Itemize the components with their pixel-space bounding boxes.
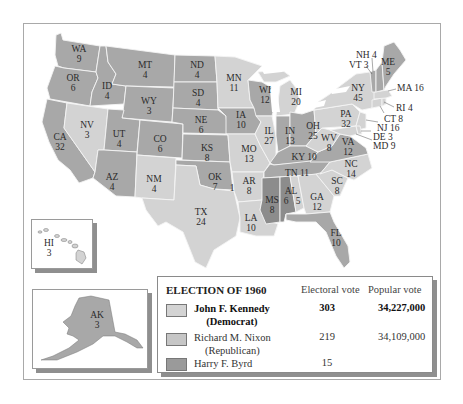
svg-text:IN13: IN13 (285, 126, 295, 146)
legend-row-byrd: Harry F. Byrd 15 (166, 358, 434, 372)
svg-text:LA10: LA10 (245, 213, 258, 233)
svg-text:AK: AK (90, 310, 104, 320)
svg-text:HI: HI (44, 238, 54, 248)
svg-text:NH 4: NH 4 (356, 50, 377, 60)
hawaii-map: HI 3 (32, 220, 92, 268)
svg-text:MI20: MI20 (290, 87, 302, 107)
svg-text:FL10: FL10 (330, 228, 341, 248)
svg-text:IL27: IL27 (264, 126, 274, 146)
svg-text:5: 5 (296, 196, 301, 206)
svg-text:VT 3: VT 3 (349, 60, 369, 70)
svg-text:TX24: TX24 (195, 207, 208, 227)
popular-vote: 34,227,000 (364, 302, 439, 313)
svg-text:RI 4: RI 4 (396, 103, 413, 113)
alaska-map: AK 3 (33, 290, 147, 368)
candidate-name: Richard M. Nixon(Republican) (194, 331, 271, 357)
alaska-inset: AK 3 (32, 289, 148, 369)
svg-text:6: 6 (284, 196, 289, 206)
svg-text:TN 11: TN 11 (285, 168, 309, 178)
legend-row-kennedy: John F. Kennedy(Democrat) 303 34,227,000 (166, 302, 434, 330)
svg-text:3: 3 (47, 248, 52, 258)
legend-col-popular: Popular vote (368, 284, 421, 295)
swatch-democrat (166, 304, 187, 317)
legend-box: ELECTION OF 1960 Electoral vote Popular … (157, 276, 433, 373)
svg-text:AL: AL (285, 186, 298, 196)
legend-col-electoral: Electoral vote (301, 284, 360, 295)
svg-text:NC14: NC14 (344, 159, 357, 179)
swatch-byrd (166, 358, 187, 371)
svg-text:WI12: WI12 (259, 85, 271, 105)
popular-vote: 34,109,000 (364, 331, 439, 342)
svg-text:IA10: IA10 (236, 110, 246, 130)
svg-text:1: 1 (230, 183, 235, 193)
svg-text:CA32: CA32 (53, 132, 66, 152)
hawaii-inset: HI 3 (31, 219, 93, 269)
swatch-republican (166, 333, 187, 346)
svg-text:3: 3 (95, 320, 100, 330)
candidate-name: John F. Kennedy(Democrat) (194, 302, 270, 328)
legend-row-nixon: Richard M. Nixon(Republican) 219 34,109,… (166, 331, 434, 359)
electoral-vote: 219 (312, 331, 342, 342)
electoral-vote: 303 (312, 302, 342, 313)
svg-text:MA 16: MA 16 (397, 83, 424, 93)
svg-text:PA32: PA32 (340, 109, 351, 129)
electoral-vote: 15 (312, 357, 342, 368)
candidate-name: Harry F. Byrd (194, 357, 252, 370)
legend-title: ELECTION OF 1960 (166, 284, 266, 296)
svg-text:MD 9: MD 9 (373, 141, 396, 151)
svg-text:VA12: VA12 (342, 137, 355, 157)
svg-text:KY 10: KY 10 (291, 152, 317, 162)
